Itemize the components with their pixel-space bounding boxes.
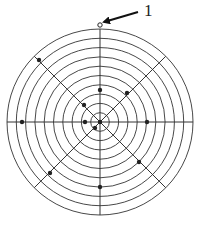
marker-dot <box>83 120 87 124</box>
arrow-line <box>104 12 138 22</box>
marker-dot <box>98 185 102 189</box>
marker-dot-hollow <box>98 23 102 27</box>
callout-label: 1 <box>144 2 153 19</box>
marker-dot <box>82 103 86 107</box>
marker-dot <box>48 171 52 175</box>
marker-dot <box>98 88 102 92</box>
marker-dot <box>145 120 149 124</box>
callout-arrow <box>104 12 138 22</box>
marker-dot <box>37 58 41 62</box>
marker-dot <box>125 91 129 95</box>
ring-target-diagram <box>0 0 199 226</box>
marker-dot <box>137 160 141 164</box>
marker-dot <box>93 126 97 130</box>
marker-dot <box>98 120 102 124</box>
marker-dot <box>20 120 24 124</box>
